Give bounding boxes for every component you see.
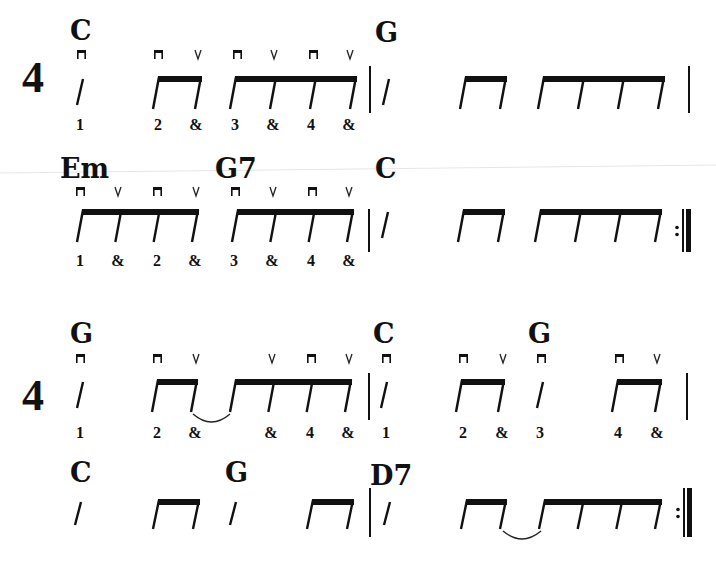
down-strum-icon bbox=[231, 187, 240, 196]
up-strum-icon bbox=[500, 354, 506, 363]
note-stem bbox=[153, 500, 159, 529]
down-strum-icon bbox=[153, 187, 162, 196]
beamed-eighth-group bbox=[230, 379, 352, 412]
note-stem bbox=[461, 500, 467, 529]
down-strum-icon bbox=[615, 354, 624, 363]
beat-count: 2 bbox=[459, 424, 467, 441]
down-strum-icon bbox=[76, 187, 85, 196]
beat-count: 1 bbox=[76, 424, 84, 441]
beat-count: & bbox=[265, 252, 278, 269]
beamed-eighth-group bbox=[232, 209, 354, 242]
beamed-eighth-group bbox=[77, 209, 199, 242]
down-strum-icon bbox=[154, 50, 163, 59]
system-line-3: 4 GCG12&&4&12&34& bbox=[22, 318, 687, 441]
note-stem bbox=[77, 210, 83, 242]
up-strum-icon bbox=[195, 50, 201, 59]
beamed-eighth-group bbox=[153, 76, 202, 109]
beat-count: 1 bbox=[76, 116, 84, 133]
note-stem bbox=[153, 77, 159, 109]
up-strum-icon bbox=[346, 354, 352, 363]
note-stem bbox=[612, 380, 618, 412]
note-stem bbox=[460, 77, 466, 109]
rhythm-sheet: 4 CG12&3&4& EmG7C1&2&3&4& 4 GCG12&&4&12&… bbox=[0, 0, 716, 563]
beamed-eighth-group bbox=[538, 76, 665, 109]
note-stem bbox=[535, 210, 541, 242]
note-stem bbox=[307, 500, 313, 529]
down-strum-icon bbox=[459, 354, 468, 363]
beat-count: & bbox=[111, 252, 124, 269]
beamed-eighth-group bbox=[535, 209, 662, 242]
slash-note bbox=[382, 212, 388, 238]
beamed-eighth-group bbox=[230, 76, 357, 109]
up-strum-icon bbox=[271, 50, 277, 59]
up-strum-icon bbox=[270, 187, 276, 196]
chord-symbol: G bbox=[375, 17, 398, 48]
down-strum-icon bbox=[77, 50, 86, 59]
up-strum-icon bbox=[347, 50, 353, 59]
beat-count: & bbox=[264, 424, 277, 441]
beat-count: 3 bbox=[230, 252, 238, 269]
system-line-2: EmG7C1&2&3&4& bbox=[60, 153, 691, 269]
note-stem bbox=[230, 77, 236, 109]
down-strum-icon bbox=[537, 354, 546, 363]
beat-count: 1 bbox=[76, 252, 84, 269]
beat-count: & bbox=[266, 116, 279, 133]
slash-note bbox=[230, 502, 236, 525]
chord-symbol: G bbox=[70, 318, 93, 349]
up-strum-icon bbox=[654, 354, 660, 363]
note-stem bbox=[230, 380, 236, 412]
chord-symbol: G bbox=[225, 457, 248, 488]
tie-arc bbox=[193, 414, 230, 422]
chord-symbol: C bbox=[375, 153, 397, 184]
beat-count: & bbox=[188, 424, 201, 441]
chord-symbol: G bbox=[528, 318, 551, 349]
beat-count: 3 bbox=[536, 424, 544, 441]
time-signature: 4 bbox=[22, 53, 44, 102]
down-strum-icon bbox=[308, 187, 317, 196]
chord-symbol: C bbox=[70, 457, 92, 488]
beat-count: & bbox=[341, 424, 354, 441]
down-strum-icon bbox=[233, 50, 242, 59]
note-stem bbox=[456, 380, 462, 412]
system-line-1: 4 CG12&3&4& bbox=[22, 15, 689, 133]
beamed-eighth-group bbox=[153, 499, 200, 529]
beat-count: 4 bbox=[306, 424, 314, 441]
slash-note bbox=[77, 79, 83, 105]
chord-symbol: Em bbox=[60, 153, 109, 184]
down-strum-icon bbox=[153, 354, 162, 363]
beat-count: 2 bbox=[154, 116, 162, 133]
slash-note bbox=[383, 79, 389, 105]
time-signature: 4 bbox=[22, 371, 44, 420]
slash-note bbox=[384, 502, 390, 525]
beat-count: 4 bbox=[307, 116, 315, 133]
beat-count: 2 bbox=[153, 252, 161, 269]
beat-count: & bbox=[495, 424, 508, 441]
up-strum-icon bbox=[193, 187, 199, 196]
up-strum-icon bbox=[269, 354, 275, 363]
up-strum-icon bbox=[346, 187, 352, 196]
slash-note bbox=[75, 502, 81, 525]
down-strum-icon bbox=[307, 354, 316, 363]
beamed-eighth-group bbox=[539, 499, 662, 529]
chord-symbol: C bbox=[70, 15, 92, 46]
beat-count: 1 bbox=[382, 424, 390, 441]
system-line-4: CGD7 bbox=[70, 457, 692, 539]
beamed-eighth-group bbox=[152, 379, 198, 412]
beamed-eighth-group bbox=[460, 76, 507, 109]
beat-count: & bbox=[342, 116, 355, 133]
beamed-eighth-group bbox=[612, 379, 662, 412]
slash-note bbox=[537, 382, 543, 408]
note-stem bbox=[232, 210, 238, 242]
beat-count: & bbox=[189, 116, 202, 133]
slash-note bbox=[77, 382, 83, 408]
note-stem bbox=[539, 500, 545, 529]
chord-symbol: D7 bbox=[370, 460, 412, 491]
up-strum-icon bbox=[193, 354, 199, 363]
beat-count: & bbox=[650, 424, 663, 441]
note-stem bbox=[538, 77, 544, 109]
note-stem bbox=[458, 210, 464, 242]
beat-count: 4 bbox=[307, 252, 315, 269]
beamed-eighth-group bbox=[456, 379, 505, 412]
slash-note bbox=[381, 382, 387, 408]
repeat-end-barline bbox=[676, 488, 692, 537]
